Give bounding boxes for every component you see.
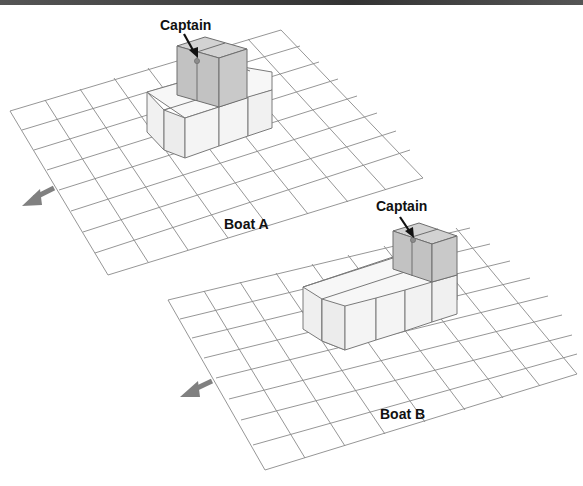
- captain-label-b: Captain: [376, 198, 427, 214]
- captain-dot-a: [194, 58, 199, 63]
- direction-arrow-b-icon: [180, 381, 212, 397]
- direction-arrow-a-icon: [22, 188, 54, 206]
- boat-b-label: Boat B: [380, 406, 425, 422]
- captain-label-a: Captain: [160, 17, 211, 33]
- boats-diagram: Captain Boat A: [0, 0, 583, 486]
- captain-dot-b: [410, 237, 415, 242]
- boat-b: Captain Boat B: [168, 198, 577, 470]
- boat-a-label: Boat A: [224, 216, 269, 232]
- boat-a: Captain Boat A: [10, 17, 423, 275]
- boat-a-cabin: [177, 37, 247, 107]
